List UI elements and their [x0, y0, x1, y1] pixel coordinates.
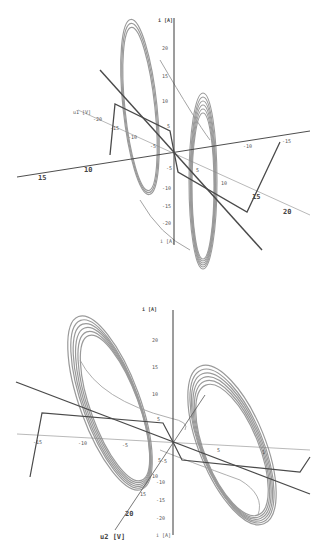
- dtick: -10: [128, 134, 137, 140]
- htick: 5: [217, 447, 220, 453]
- dtick: 15: [252, 193, 260, 201]
- vtick: -20: [156, 515, 165, 521]
- left-scroll-attractor: [50, 306, 169, 499]
- vtick: -5: [166, 165, 172, 171]
- vtick: 15: [152, 364, 158, 370]
- i-axis-label-top: i [A]: [142, 306, 157, 312]
- htick: -10: [78, 440, 87, 446]
- i-axis-bottom-label: i [A]: [160, 238, 175, 244]
- htick: -5: [122, 442, 128, 448]
- htick: -10: [243, 143, 252, 149]
- dtick: 20: [125, 510, 133, 518]
- vtick: 20: [152, 337, 158, 343]
- htick: 15: [38, 174, 46, 182]
- phase-portrait-top-svg: i [A] 20 15 10 5 -5 -10 -15 -20 i [A] u1…: [0, 0, 328, 280]
- dtick: 10: [152, 473, 158, 479]
- dtick: -5: [150, 143, 156, 149]
- vtick: -15: [162, 203, 171, 209]
- dtick: 5: [196, 167, 199, 173]
- dtick: -15: [110, 125, 119, 131]
- vtick: 10: [152, 391, 158, 397]
- dtick: 5: [158, 457, 161, 463]
- u1-axis-label: u1 [V]: [73, 109, 91, 115]
- dtick: 10: [221, 180, 227, 186]
- phase-portrait-bottom-svg: i [A] 20 15 10 5 -5 -10 -15 -20 i [A] -1…: [0, 280, 328, 558]
- vtick: 5: [157, 416, 160, 422]
- phase-portrait-bottom: i [A] 20 15 10 5 -5 -10 -15 -20 i [A] -1…: [0, 280, 328, 558]
- dtick: -20: [93, 116, 102, 122]
- trajectory-connector: [80, 360, 260, 515]
- right-scroll-attractor: [170, 354, 295, 536]
- htick: 10: [84, 166, 92, 174]
- vtick: 10: [162, 98, 168, 104]
- i-axis-bottom-label: i [A]: [156, 532, 171, 538]
- vtick: 15: [162, 73, 168, 79]
- vtick: -10: [162, 185, 171, 191]
- diagonal-projection-line: [16, 382, 310, 494]
- phase-portrait-top: i [A] 20 15 10 5 -5 -10 -15 -20 i [A] u1…: [0, 0, 328, 280]
- vtick: 20: [162, 45, 168, 51]
- u2-axis-label: u2 [V]: [100, 533, 125, 541]
- dtick: 15: [140, 491, 146, 497]
- htick: -15: [33, 439, 42, 445]
- vtick: -20: [162, 220, 171, 226]
- htick: -15: [282, 138, 291, 144]
- vtick: -15: [156, 497, 165, 503]
- vtick: 5: [167, 123, 170, 129]
- dtick: 20: [283, 208, 291, 216]
- vtick: -10: [156, 479, 165, 485]
- vtick: -5: [161, 458, 167, 464]
- i-axis-label-top: i [A]: [158, 17, 173, 23]
- htick: 1: [262, 449, 265, 455]
